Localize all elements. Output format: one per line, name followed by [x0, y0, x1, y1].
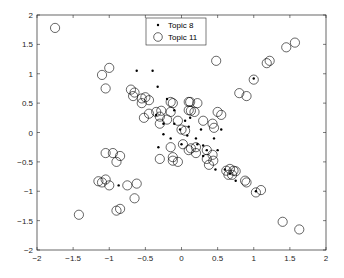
data-point-dot [169, 137, 171, 139]
data-point-dot [216, 149, 218, 151]
legend-label-topic-11: Topic 11 [168, 33, 198, 42]
y-tick-label: 0 [29, 129, 34, 138]
data-point-dot [202, 144, 204, 146]
data-point-dot [173, 109, 175, 111]
data-point-dot [188, 125, 190, 127]
data-point-dot [179, 128, 181, 130]
data-point-dot [253, 77, 255, 79]
y-tick-label: 2 [29, 11, 34, 20]
x-tick-label: −0.5 [137, 254, 153, 263]
legend: Topic 8 Topic 11 [146, 18, 206, 45]
data-point-dot [166, 98, 168, 100]
y-tick-label: −1 [24, 187, 34, 196]
y-tick-label: 1.5 [22, 40, 34, 49]
y-tick-label: −1.5 [17, 217, 33, 226]
data-point-dot [155, 114, 157, 116]
x-tick-label: 0 [179, 254, 184, 263]
data-point-dot [213, 137, 215, 139]
data-point-dot [189, 117, 191, 119]
data-point-dot [220, 128, 222, 130]
y-tick-label: −2 [24, 246, 34, 255]
data-point-dot [151, 70, 153, 72]
data-point-dot [224, 168, 226, 170]
data-point-dot [195, 137, 197, 139]
x-tick-label: 1 [252, 254, 257, 263]
y-tick-label: 0.5 [22, 99, 34, 108]
data-point-dot [156, 85, 158, 87]
data-point-dot [255, 190, 257, 192]
x-tick-label: 2 [324, 254, 329, 263]
data-point-dot [136, 70, 138, 72]
data-point-dot [202, 155, 204, 157]
data-point-dot [117, 184, 119, 186]
data-point-dot [162, 133, 164, 135]
data-point-dot [186, 134, 188, 136]
data-point-dot [157, 146, 159, 148]
x-tick-label: −1 [105, 254, 115, 263]
scatter-chart: −2−1.5−1−0.500.511.52 −2−1.5−1−0.500.511… [0, 0, 344, 278]
data-point-dot [180, 143, 182, 145]
data-point-dot [214, 168, 216, 170]
x-tick-label: 0.5 [212, 254, 224, 263]
legend-label-topic-8: Topic 8 [168, 21, 194, 30]
data-point-dot [234, 179, 236, 181]
data-point-dot [184, 120, 186, 122]
data-point-dot [206, 149, 208, 151]
y-tick-label: −0.5 [17, 158, 33, 167]
data-point-dot [229, 172, 231, 174]
y-tick-label: 1 [29, 70, 34, 79]
data-point-dot [200, 128, 202, 130]
data-point-dot [162, 122, 164, 124]
x-tick-label: 1.5 [284, 254, 296, 263]
data-point-dot [173, 122, 175, 124]
x-tick-label: −1.5 [65, 254, 81, 263]
x-tick-label: −2 [32, 254, 42, 263]
data-point-dot [196, 143, 198, 145]
legend-dot-icon [157, 24, 159, 26]
